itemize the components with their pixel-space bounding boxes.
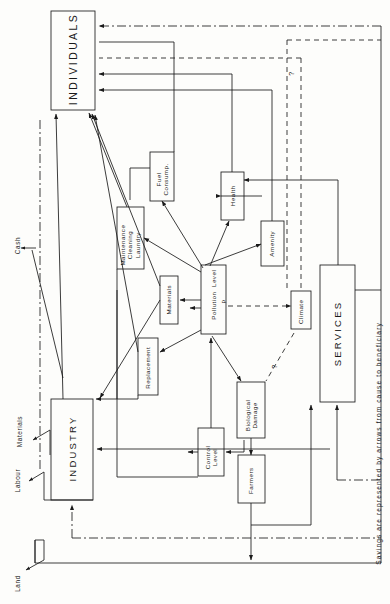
label-land: Land: [14, 569, 21, 599]
label-farmers: Farmers: [247, 457, 254, 505]
label-materials-edge: Materials: [16, 410, 23, 454]
label-materials-box: Materials: [165, 276, 172, 323]
edge-labour-tick: [29, 472, 44, 481]
label-industry: INDUSTRY: [67, 389, 78, 509]
label-individuals: INDIVIDUALS: [67, 0, 79, 121]
diagram-canvas: INDIVIDUALS INDUSTRY SERVICES FuelConsum…: [0, 0, 390, 604]
label-p-pollution: p: [219, 296, 226, 308]
edge-materials-tick: [33, 430, 50, 440]
edge-industry-to-individuals: [56, 114, 63, 399]
label-climate: Climate: [297, 294, 304, 330]
edge-pollution-to-fuel: [162, 201, 203, 268]
label-q-climate-top: ?: [288, 68, 295, 80]
label-health: Health: [229, 173, 236, 219]
label-control: ControlLevel: [204, 432, 219, 482]
label-pollution: Pollution Level: [210, 261, 217, 328]
label-maintenance: MaintenanceCleaningLaundry: [119, 215, 141, 275]
label-replacement: Replacement: [144, 340, 151, 396]
edge-cash-diag: [32, 250, 63, 378]
edge-maintenance-to-individuals: [89, 113, 127, 207]
label-q-climate-bio: ?: [271, 361, 278, 373]
label-cash: Cash: [14, 231, 21, 261]
label-services: SERVICES: [332, 269, 343, 399]
diagram-caption: Savings are represented by arrows from c…: [375, 279, 382, 604]
edge-services-bus-top: [244, 180, 338, 265]
edge-pollution-to-replacement: [160, 330, 201, 352]
edge-farmers-to-services: [251, 405, 311, 525]
label-labour: Labour: [14, 461, 21, 501]
edge-pollution-to-biological: [212, 336, 241, 381]
frame-fuel-hook: [130, 168, 150, 200]
edge-land-frame: [35, 540, 381, 563]
label-fuel: FuelConsump.: [155, 155, 170, 203]
edge-climate-to-biological: [266, 333, 294, 381]
label-biological: BiologicalDamage: [244, 387, 259, 443]
label-amenity: Amenity: [268, 222, 275, 266]
